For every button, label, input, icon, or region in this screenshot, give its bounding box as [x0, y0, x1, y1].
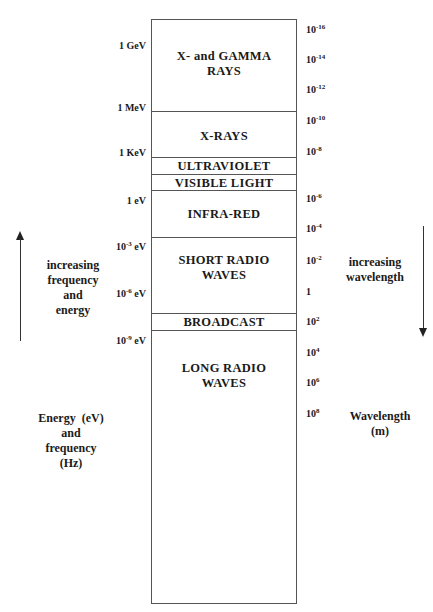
energy-tick-1e-6ev: 10-6 eV — [116, 288, 146, 299]
band-label-line: X- and GAMMA — [151, 49, 297, 64]
wavelength-tick: 10-14 — [306, 54, 325, 65]
axis-title-line: (Hz) — [26, 456, 116, 471]
energy-tick-1mev: 1 MeV — [117, 102, 146, 113]
arrow-down-icon — [419, 328, 427, 337]
band-visible-light: VISIBLE LIGHT — [151, 176, 297, 191]
wavelength-tick: 10-4 — [306, 223, 322, 234]
axis-title-line: Energy (eV) — [26, 411, 116, 426]
axis-title-line: and — [26, 426, 116, 441]
annotation-line: frequency — [34, 273, 112, 288]
band-label-line: LONG RADIO — [151, 361, 297, 376]
band-long-radio-waves: LONG RADIO WAVES — [151, 361, 297, 391]
band-label-line: WAVES — [151, 376, 297, 391]
energy-tick-1e-3ev: 10-3 eV — [116, 241, 146, 252]
band-label-line: ULTRAVIOLET — [151, 159, 297, 174]
axis-title-line: Wavelength — [340, 409, 420, 424]
band-label-line: VISIBLE LIGHT — [151, 176, 297, 191]
band-label-line: SHORT RADIO — [151, 253, 297, 268]
wavelength-tick: 1 — [306, 286, 311, 297]
wavelength-tick: 102 — [306, 316, 320, 327]
axis-title-line: frequency — [26, 441, 116, 456]
wavelength-tick: 10-10 — [306, 115, 325, 126]
divider-shortradio-broadcast — [151, 313, 297, 314]
left-annotation-increasing-frequency: increasing frequency and energy — [34, 258, 112, 318]
energy-tick-1ev: 1 eV — [127, 195, 146, 206]
band-x-rays: X-RAYS — [151, 129, 297, 144]
annotation-line: wavelength — [335, 270, 415, 285]
band-gamma-rays: X- and GAMMA RAYS — [151, 49, 297, 79]
wavelength-tick: 104 — [306, 347, 320, 358]
energy-tick-1gev: 1 GeV — [119, 40, 146, 51]
band-infra-red: INFRA-RED — [151, 207, 297, 222]
wavelength-tick: 10-8 — [306, 146, 322, 157]
energy-tick-1kev: 1 KeV — [119, 147, 146, 158]
wavelength-tick: 10-16 — [306, 24, 325, 35]
annotation-line: increasing — [335, 255, 415, 270]
wavelength-tick: 106 — [306, 377, 320, 388]
wavelength-tick: 10-6 — [306, 193, 322, 204]
energy-tick-1e-9ev: 10-9 eV — [116, 335, 146, 346]
right-annotation-increasing-wavelength: increasing wavelength — [335, 255, 415, 285]
wavelength-tick: 10-12 — [306, 84, 325, 95]
band-broadcast: BROADCAST — [151, 315, 297, 330]
divider-ir-shortradio — [151, 237, 297, 238]
right-axis-title: Wavelength (m) — [340, 409, 420, 439]
band-label-line: INFRA-RED — [151, 207, 297, 222]
annotation-line: energy — [34, 303, 112, 318]
annotation-line: increasing — [34, 258, 112, 273]
wavelength-tick: 108 — [306, 408, 320, 419]
band-label-line: BROADCAST — [151, 315, 297, 330]
divider-xray-uv — [151, 157, 297, 158]
spectrum-box — [151, 19, 297, 604]
band-label-line: X-RAYS — [151, 129, 297, 144]
band-label-line: RAYS — [151, 64, 297, 79]
annotation-line: and — [34, 288, 112, 303]
band-label-line: WAVES — [151, 268, 297, 283]
band-short-radio-waves: SHORT RADIO WAVES — [151, 253, 297, 283]
divider-uv-visible — [151, 174, 297, 175]
left-axis-title: Energy (eV) and frequency (Hz) — [26, 411, 116, 471]
arrow-down-shaft — [423, 226, 424, 329]
arrow-up-shaft — [20, 238, 21, 341]
axis-title-line: (m) — [340, 424, 420, 439]
divider-gamma-xray — [151, 111, 297, 112]
divider-broadcast-longradio — [151, 330, 297, 331]
band-ultraviolet: ULTRAVIOLET — [151, 159, 297, 174]
wavelength-tick: 10-2 — [306, 255, 322, 266]
